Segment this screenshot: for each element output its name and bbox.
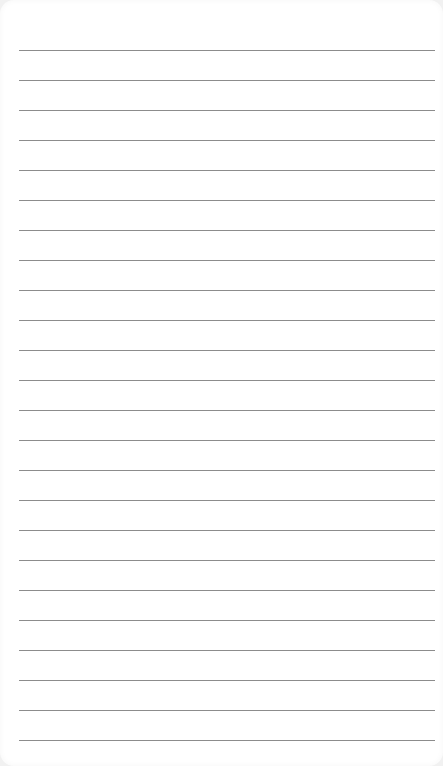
ruled-line [19, 620, 435, 621]
ruled-line [19, 320, 435, 321]
ruled-line [19, 650, 435, 651]
ruled-line [19, 500, 435, 501]
ruled-line [19, 440, 435, 441]
ruled-line [19, 50, 435, 51]
ruled-line [19, 110, 435, 111]
ruled-line [19, 350, 435, 351]
ruled-line [19, 710, 435, 711]
ruled-line [19, 230, 435, 231]
ruled-line [19, 530, 435, 531]
ruled-lines [19, 0, 435, 766]
ruled-line [19, 410, 435, 411]
ruled-line [19, 380, 435, 381]
ruled-line [19, 740, 435, 741]
ruled-line [19, 470, 435, 471]
ruled-line [19, 680, 435, 681]
ruled-line [19, 140, 435, 141]
lined-paper [0, 0, 443, 766]
ruled-line [19, 560, 435, 561]
ruled-line [19, 590, 435, 591]
ruled-line [19, 290, 435, 291]
ruled-line [19, 200, 435, 201]
ruled-line [19, 170, 435, 171]
ruled-line [19, 80, 435, 81]
ruled-line [19, 260, 435, 261]
